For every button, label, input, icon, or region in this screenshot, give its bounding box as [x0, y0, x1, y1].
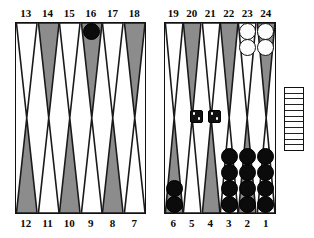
point-2[interactable] — [238, 118, 256, 213]
point-triangle-22 — [220, 23, 238, 118]
point-11[interactable] — [38, 118, 60, 213]
point-triangle-8 — [102, 118, 124, 213]
point-21[interactable] — [202, 23, 220, 118]
point-triangle-7 — [124, 118, 146, 213]
point-label-17: 17 — [102, 6, 124, 20]
point-labels-top-right: 19 20 21 22 23 24 — [164, 6, 275, 20]
board-half-left — [15, 22, 146, 214]
point-triangle-21 — [202, 23, 220, 118]
point-1[interactable] — [257, 118, 275, 213]
checker-black-point-2[interactable] — [239, 180, 256, 197]
bear-off-slot — [285, 145, 303, 150]
point-triangle-12 — [16, 118, 38, 213]
quadrant-top-right — [165, 23, 275, 118]
point-triangle-4 — [202, 118, 220, 213]
checker-black-point-16[interactable] — [83, 23, 100, 40]
point-triangle-15 — [59, 23, 81, 118]
point-triangle-13 — [16, 23, 38, 118]
backgammon-board: 13 14 15 16 17 18 19 20 21 22 23 24 12 1… — [0, 0, 314, 238]
point-19[interactable] — [165, 23, 183, 118]
point-label-6: 6 — [164, 216, 183, 230]
checker-white-point-23[interactable] — [239, 23, 256, 40]
point-triangle-11 — [38, 118, 60, 213]
point-18[interactable] — [124, 23, 146, 118]
point-6[interactable] — [165, 118, 183, 213]
point-15[interactable] — [59, 23, 81, 118]
point-24[interactable] — [257, 23, 275, 118]
die-pip — [211, 112, 214, 115]
point-label-11: 11 — [37, 216, 59, 230]
point-3[interactable] — [220, 118, 238, 213]
checker-black-point-6[interactable] — [166, 180, 183, 197]
point-label-22: 22 — [220, 6, 239, 20]
point-22[interactable] — [220, 23, 238, 118]
point-16[interactable] — [81, 23, 103, 118]
point-label-20: 20 — [183, 6, 202, 20]
point-label-7: 7 — [123, 216, 145, 230]
checker-black-point-3[interactable] — [221, 180, 238, 197]
point-20[interactable] — [183, 23, 201, 118]
point-label-23: 23 — [238, 6, 257, 20]
point-label-14: 14 — [37, 6, 59, 20]
point-labels-bottom-right: 6 5 4 3 2 1 — [164, 216, 275, 230]
point-label-24: 24 — [257, 6, 276, 20]
point-label-15: 15 — [58, 6, 80, 20]
point-label-12: 12 — [15, 216, 37, 230]
checker-black-point-2[interactable] — [239, 164, 256, 181]
point-triangle-5 — [183, 118, 201, 213]
point-triangle-18 — [124, 23, 146, 118]
point-triangle-10 — [59, 118, 81, 213]
checker-black-point-6[interactable] — [166, 196, 183, 213]
point-label-13: 13 — [15, 6, 37, 20]
point-label-2: 2 — [238, 216, 257, 230]
point-triangle-19 — [165, 23, 183, 118]
point-10[interactable] — [59, 118, 81, 213]
die-right[interactable] — [208, 110, 221, 123]
checker-black-point-3[interactable] — [221, 196, 238, 213]
point-triangle-9 — [81, 118, 103, 213]
point-label-10: 10 — [58, 216, 80, 230]
die-pip — [198, 117, 201, 120]
point-triangle-14 — [38, 23, 60, 118]
checker-black-point-2[interactable] — [239, 148, 256, 165]
point-labels-top-left: 13 14 15 16 17 18 — [15, 6, 145, 20]
point-9[interactable] — [81, 118, 103, 213]
bear-off-tray[interactable] — [284, 87, 304, 151]
point-label-16: 16 — [80, 6, 102, 20]
point-label-8: 8 — [102, 216, 124, 230]
point-4[interactable] — [202, 118, 220, 213]
point-12[interactable] — [16, 118, 38, 213]
point-14[interactable] — [38, 23, 60, 118]
die-pip — [193, 112, 196, 115]
point-label-1: 1 — [257, 216, 276, 230]
quadrant-bottom-left — [16, 118, 145, 213]
point-triangle-20 — [183, 23, 201, 118]
point-labels-bottom-left: 12 11 10 9 8 7 — [15, 216, 145, 230]
point-label-5: 5 — [183, 216, 202, 230]
point-7[interactable] — [124, 118, 146, 213]
point-label-4: 4 — [201, 216, 220, 230]
point-label-21: 21 — [201, 6, 220, 20]
point-8[interactable] — [102, 118, 124, 213]
dice-area[interactable] — [190, 106, 224, 126]
point-5[interactable] — [183, 118, 201, 213]
checker-black-point-3[interactable] — [221, 164, 238, 181]
point-13[interactable] — [16, 23, 38, 118]
point-17[interactable] — [102, 23, 124, 118]
quadrant-bottom-right — [165, 118, 275, 213]
point-triangle-17 — [102, 23, 124, 118]
checker-black-point-2[interactable] — [239, 196, 256, 213]
die-pip — [216, 117, 219, 120]
quadrant-top-left — [16, 23, 145, 118]
checker-black-point-3[interactable] — [221, 148, 238, 165]
point-label-19: 19 — [164, 6, 183, 20]
die-left[interactable] — [190, 110, 203, 123]
point-label-3: 3 — [220, 216, 239, 230]
point-label-9: 9 — [80, 216, 102, 230]
point-23[interactable] — [238, 23, 256, 118]
checker-white-point-23[interactable] — [239, 39, 256, 56]
point-label-18: 18 — [123, 6, 145, 20]
